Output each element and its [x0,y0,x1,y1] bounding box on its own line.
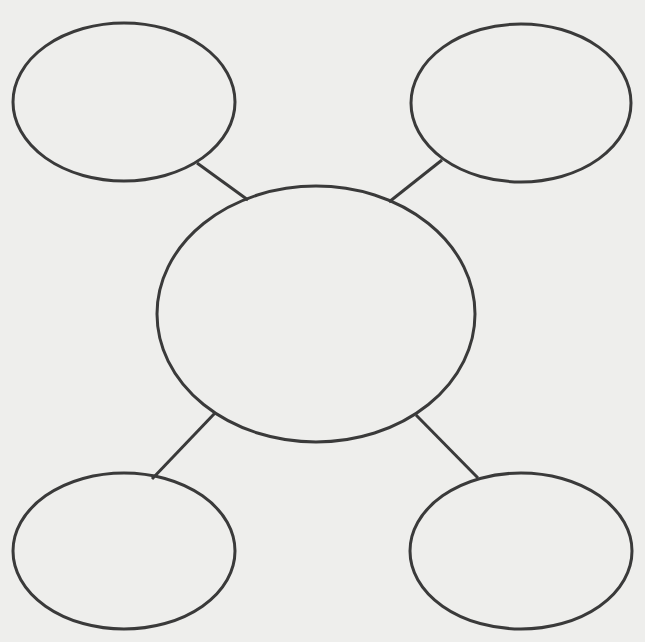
paper-background [0,0,645,642]
bubble-map-diagram [0,0,645,642]
